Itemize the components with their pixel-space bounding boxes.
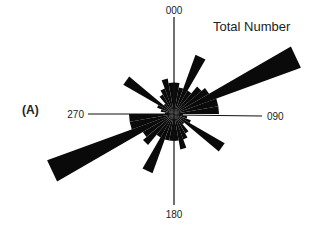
rose-diagram: 000 090 180 270 Total Number (A) (0, 0, 325, 234)
chart-title: Total Number (213, 19, 291, 34)
direction-label-180: 180 (166, 209, 183, 220)
direction-label-000: 000 (166, 5, 183, 16)
direction-label-090: 090 (267, 111, 284, 122)
direction-label-270: 270 (67, 109, 84, 120)
axis-east (174, 115, 262, 116)
panel-label: (A) (22, 103, 39, 117)
